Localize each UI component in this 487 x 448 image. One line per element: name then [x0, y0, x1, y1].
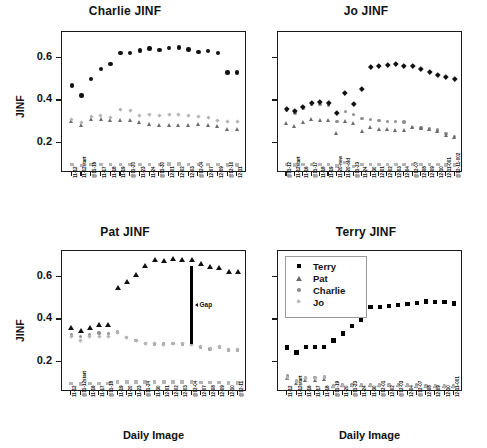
x-tick-mark	[117, 391, 118, 395]
x-tick-label: @11-12start	[82, 371, 87, 397]
point-diamond	[301, 104, 306, 109]
legend-marker-diamond-icon	[291, 300, 307, 303]
panel-title-charlie: Charlie JINF	[0, 4, 250, 18]
y-tick-mark	[272, 57, 277, 58]
x-axis-label-pat: Daily Image	[61, 429, 246, 441]
x-tick-label: 11-12	[72, 385, 77, 397]
x-tick-mark	[200, 391, 201, 395]
x-tick-label: 12-02	[388, 166, 393, 178]
series-charlie	[62, 32, 245, 171]
legend-item-jo[interactable]: Jo	[291, 296, 360, 308]
x-tick-label: 12-02	[174, 385, 179, 397]
legend-item-charlie[interactable]: Charlie	[291, 284, 360, 296]
plot-area-jo	[277, 31, 462, 172]
point-square	[396, 303, 400, 307]
x-tick-mark	[319, 172, 320, 176]
point-square	[368, 305, 372, 309]
x-tick-label: 12-10	[439, 166, 444, 178]
x-tick-mark	[361, 172, 362, 176]
x-tick-mark	[305, 391, 306, 395]
x-tick-label: 12-08	[211, 385, 216, 397]
point-diamond	[402, 63, 407, 68]
point-circle	[225, 70, 229, 74]
x-tick-label: @12-04	[193, 381, 198, 397]
point-diamond	[326, 100, 331, 105]
x-tick-mark	[296, 391, 297, 395]
point-circle	[89, 77, 93, 81]
y-tick-mark	[272, 361, 277, 362]
point-triangle	[133, 272, 139, 277]
x-tick-mark	[237, 391, 238, 395]
x-tick-mark	[139, 172, 140, 176]
y-tick-mark	[56, 318, 61, 319]
x-tick-mark	[311, 172, 312, 176]
x-tick-mark	[425, 391, 426, 395]
legend-label: Jo	[313, 297, 324, 308]
x-tick-label: 11-23	[141, 166, 146, 178]
legend-marker-triangle-icon	[291, 276, 307, 281]
point-circle	[70, 83, 74, 87]
x-tick-label: 12-09	[219, 166, 224, 178]
point-diamond	[393, 61, 398, 66]
series-jo	[278, 32, 461, 171]
x-tick-mark	[217, 172, 218, 176]
point-diamond	[385, 62, 390, 67]
x-tick-mark	[407, 391, 408, 395]
x-tick-label: 12-08	[422, 166, 427, 178]
x-tick-mark	[336, 172, 337, 176]
point-circle	[177, 45, 181, 49]
x-tick-label: @11-24	[146, 381, 151, 397]
x-tick-label: 12-07	[202, 385, 207, 397]
x-tick-label: 11-24	[151, 166, 156, 178]
legend-item-terry[interactable]: Terry	[291, 260, 360, 272]
x-tick-label: 11-24	[362, 385, 367, 397]
point-diamond	[360, 86, 365, 91]
x-tick-label: @11-23	[353, 381, 358, 397]
point-triangle	[161, 258, 167, 263]
x-tick-label: 12-04	[409, 385, 414, 397]
point-triangle	[105, 322, 111, 327]
x-tick-label: 11-12start	[296, 156, 301, 178]
plot-area-pat: Gap	[61, 250, 246, 391]
point-square	[442, 300, 446, 304]
jinf-multi-panel-figure: Charlie JINF JINF 0.20.40.611-1211-12sta…	[0, 0, 487, 448]
x-tick-label: 11-20-new	[338, 156, 343, 178]
x-tick-mark	[388, 391, 389, 395]
point-square	[452, 301, 456, 305]
point-square	[294, 350, 298, 354]
x-tick-label: 12-09	[430, 166, 435, 178]
x-tick-label: 11-23	[137, 385, 142, 397]
x-tick-label: 11-16	[304, 166, 309, 178]
series-legend: TerryPatCharlieJo	[285, 256, 367, 318]
x-tick-label: 11-18	[321, 166, 326, 178]
point-diamond	[317, 100, 322, 105]
x-tick-mark	[416, 391, 417, 395]
x-tick-label: 12-11-001	[455, 376, 460, 397]
x-tick-label: @12-01	[381, 381, 386, 397]
x-tick-label: @12-07	[414, 162, 419, 178]
x-tick-label: 11-30	[372, 385, 377, 397]
y-tick-label: 0.4	[19, 92, 52, 104]
point-triangle	[124, 279, 130, 284]
x-tick-label: 12-01	[380, 166, 385, 178]
point-triangle	[198, 261, 204, 266]
legend-marker-circle-icon	[291, 288, 307, 292]
y-tick-label: 0.2	[19, 354, 52, 366]
point-diamond	[284, 106, 289, 111]
x-tick-label: 12-01	[165, 385, 170, 397]
point-circle	[128, 51, 132, 55]
legend-item-pat[interactable]: Pat	[291, 272, 360, 284]
y-tick-mark	[272, 318, 277, 319]
x-tick-mark	[379, 391, 380, 395]
legend-label: Charlie	[313, 285, 345, 296]
x-tick-mark	[178, 172, 179, 176]
x-tick-mark	[89, 391, 90, 395]
x-tick-label: 12-10	[446, 385, 451, 397]
x-tick-label: 11-30	[156, 385, 161, 397]
y-tick-mark	[272, 276, 277, 277]
point-square	[415, 301, 419, 305]
x-tick-mark	[412, 172, 413, 176]
x-tick-label: @12-11-002	[456, 153, 461, 178]
point-diamond	[351, 101, 356, 106]
panel-title-jo: Jo JINF	[245, 4, 487, 18]
